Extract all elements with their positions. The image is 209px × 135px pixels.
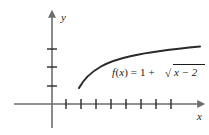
formula-plus: + — [149, 66, 155, 78]
radical-icon: √ — [165, 67, 172, 79]
formula-equals: = — [131, 66, 137, 78]
formula-constant: 1 — [140, 66, 146, 78]
y-axis-label: y — [60, 11, 66, 23]
formula-radicand: x − 2 — [173, 66, 198, 78]
function-graph-figure: y x f(x)=1+ √ x − 2 — [0, 0, 209, 135]
x-axis-label: x — [196, 110, 202, 122]
formula-paren-close: ) — [124, 66, 128, 79]
plot-canvas: y x f(x)=1+ √ x − 2 — [0, 0, 209, 135]
formula-annotation: f(x)=1+ √ x − 2 — [112, 65, 205, 80]
formula-expression: f(x)=1+ — [112, 66, 155, 79]
